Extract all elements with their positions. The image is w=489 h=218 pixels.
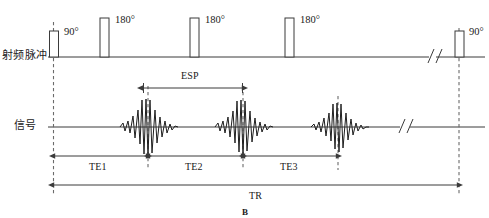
time-marker-lines (54, 22, 460, 196)
excitation-90-first-label: 90° (64, 27, 79, 38)
break-mark-signal-icon (399, 119, 413, 133)
refocus-180-2-pulse (190, 18, 199, 57)
interval-arrows (54, 156, 457, 185)
te3-span-label: TE3 (280, 162, 298, 172)
signal-row-label: 信号 (14, 120, 37, 131)
te2-span-label: TE2 (185, 162, 203, 172)
esp-span-label: ESP (181, 71, 199, 81)
break-mark-rf-icon (428, 49, 442, 63)
figure-caption: B (242, 208, 248, 217)
tr-span-label: TR (249, 191, 262, 201)
refocus-180-1-label: 180° (115, 15, 135, 26)
rf-pulse-shapes (50, 18, 465, 57)
te1-span-label: TE1 (89, 162, 107, 172)
refocus-180-3-label: 180° (300, 15, 320, 26)
refocus-180-3-pulse (285, 18, 294, 57)
excitation-90-next-label: 90° (469, 27, 484, 38)
excitation-90-first-pulse (50, 31, 59, 57)
esp-span-arrow (143, 83, 243, 93)
excitation-90-next-pulse (455, 31, 464, 57)
echo-3-waveform (311, 103, 369, 152)
rf-row-label: 射频脉冲 (2, 50, 47, 61)
pulse-sequence-figure: 射频脉冲 信号 90° 180° 180° 180° 90° ESP TE1 T… (0, 0, 489, 218)
refocus-180-1-pulse (100, 18, 109, 57)
refocus-180-2-label: 180° (205, 15, 225, 26)
echo-1-waveform (120, 99, 178, 156)
